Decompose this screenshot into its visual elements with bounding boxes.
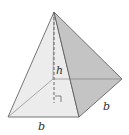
height-label: h [56,64,63,77]
square-pyramid-diagram: h b b [0,0,129,135]
base-side-label: b [103,100,110,113]
base-front-label: b [38,120,45,133]
